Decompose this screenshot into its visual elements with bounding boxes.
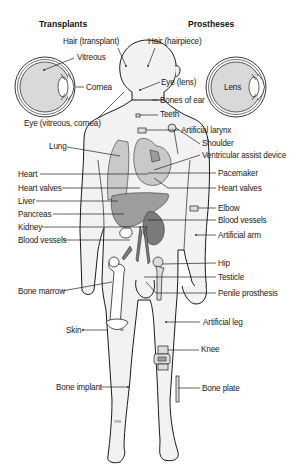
label-testicle: Testicle — [218, 273, 245, 282]
label-blood-vessels-left: Blood vessels — [18, 236, 67, 245]
label-kidney: Kidney — [18, 223, 43, 232]
label-knee: Knee — [201, 345, 220, 354]
label-penile-prosthesis: Penile prosthesis — [218, 289, 278, 298]
label-heart-valves-left: Heart valves — [18, 184, 62, 193]
label-artificial-arm: Artificial arm — [218, 231, 261, 240]
label-hair-hairpiece: Hair (hairpiece) — [148, 37, 202, 46]
label-bones-of-ear: Bones of ear — [160, 96, 205, 105]
label-elbow: Elbow — [218, 204, 240, 213]
prostheses-heading: Prostheses — [188, 19, 235, 29]
label-teeth: Teeth — [160, 110, 180, 119]
label-vitreous: Vitreous — [77, 53, 106, 62]
label-hip: Hip — [218, 259, 230, 268]
label-cornea: Cornea — [86, 83, 113, 92]
label-lung: Lung — [49, 142, 67, 151]
label-shoulder: Shoulder — [202, 139, 234, 148]
label-bone-marrow: Bone marrow — [18, 287, 65, 296]
label-pacemaker: Pacemaker — [218, 169, 258, 178]
label-heart: Heart — [18, 170, 38, 179]
label-liver: Liver — [18, 197, 35, 206]
label-bone-implant: Bone implant — [56, 383, 103, 392]
label-eye-vitreous-cornea: Eye (vitreous, cornea) — [24, 119, 101, 128]
label-lens: Lens — [224, 83, 241, 92]
label-blood-vessels-right: Blood vessels — [218, 216, 267, 225]
transplants-prostheses-diagram: Transplants Prostheses Vitreous Cornea L… — [0, 0, 296, 474]
illustrator-signature: NW — [113, 419, 122, 424]
label-bone-plate: Bone plate — [202, 384, 240, 393]
label-eye-lens: Eye (lens) — [161, 78, 197, 87]
label-ventricular-assist-device: Ventricular assist device — [202, 151, 287, 160]
eye-transplant-illustration — [15, 57, 75, 117]
label-artificial-larynx: Artificial larynx — [181, 126, 231, 135]
label-artificial-leg: Artificial leg — [203, 318, 243, 327]
transplants-heading: Transplants — [39, 19, 87, 29]
label-hair-transplant: Hair (transplant) — [63, 37, 120, 46]
label-skin: Skin — [66, 326, 82, 335]
label-pancreas: Pancreas — [18, 210, 51, 219]
label-heart-valves-right: Heart valves — [218, 184, 262, 193]
